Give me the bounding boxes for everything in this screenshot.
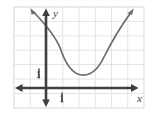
graph-figure: y x 1 1 bbox=[0, 0, 153, 113]
y-axis-label: y bbox=[52, 7, 58, 19]
coordinate-plane-svg: y x 1 1 bbox=[0, 0, 153, 113]
y-axis-unit-tick-label: 1 bbox=[36, 68, 42, 80]
x-axis-unit-tick-label: 1 bbox=[59, 92, 65, 104]
x-axis-label: x bbox=[136, 92, 142, 104]
